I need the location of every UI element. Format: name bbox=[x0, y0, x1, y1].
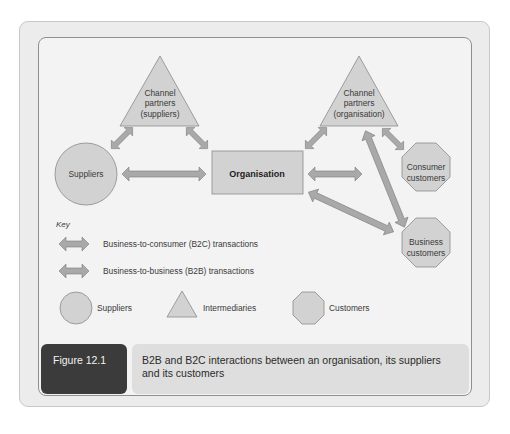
key-b2c-arrow-icon bbox=[59, 237, 89, 251]
arrow-organisation-business bbox=[305, 186, 396, 238]
key-suppliers-label: Suppliers bbox=[97, 303, 132, 313]
channel-suppliers-label-1: Channel bbox=[144, 88, 175, 98]
arrow-organisation-channel-org bbox=[301, 123, 331, 153]
business-customers-label-2: customers bbox=[407, 248, 446, 258]
arrow-suppliers-organisation bbox=[122, 167, 206, 181]
figure-caption-text: B2B and B2C interactions between an orga… bbox=[132, 344, 469, 394]
business-customers-label-1: Business bbox=[409, 237, 443, 247]
arrow-organisation-consumer bbox=[308, 167, 362, 181]
key-b2b-label: Business-to-business (B2B) transactions bbox=[103, 266, 254, 276]
figure-label: Figure 12.1 bbox=[41, 344, 127, 394]
key-customers-octagon-icon bbox=[293, 292, 324, 324]
channel-org-label-1: Channel bbox=[343, 88, 374, 98]
key-intermediaries-label: Intermediaries bbox=[203, 303, 256, 313]
channel-suppliers-label-2: partners bbox=[145, 98, 176, 108]
organisation-label: Organisation bbox=[229, 169, 285, 179]
consumer-customers-label-2: customers bbox=[407, 173, 446, 183]
channel-org-label-2: partners bbox=[344, 98, 375, 108]
key-b2c-label: Business-to-consumer (B2C) transactions bbox=[103, 239, 258, 249]
arrow-channel-org-consumer bbox=[378, 124, 408, 154]
key-suppliers-circle-icon bbox=[60, 292, 92, 324]
consumer-customers-label-1: Consumer bbox=[407, 162, 446, 172]
suppliers-label: Suppliers bbox=[69, 169, 104, 179]
key-b2b-arrow-icon bbox=[59, 264, 89, 278]
key-title: Key bbox=[56, 220, 71, 229]
key-customers-label: Customers bbox=[329, 303, 370, 313]
key-intermediaries-triangle-icon bbox=[167, 291, 197, 317]
channel-suppliers-label-3: (suppliers) bbox=[140, 109, 179, 119]
arrow-channel-organisation bbox=[182, 123, 212, 153]
figure-caption-bar: Figure 12.1 B2B and B2C interactions bet… bbox=[41, 344, 469, 394]
arrow-suppliers-channel bbox=[107, 123, 137, 153]
channel-org-label-3: (organisation) bbox=[333, 109, 384, 119]
